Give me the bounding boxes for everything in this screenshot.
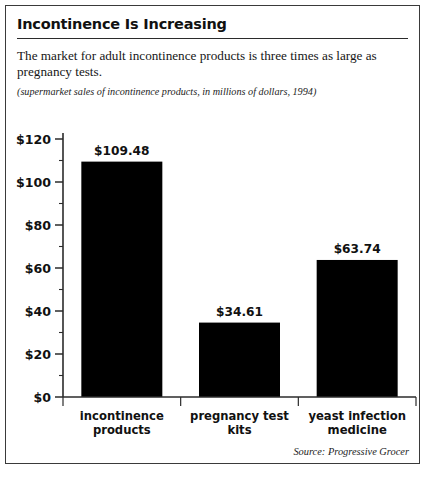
chart-figure: Incontinence Is Increasing The market fo… [5, 5, 420, 464]
x-axis-category-label: products [93, 423, 151, 437]
bar-chart-svg: $0$20$40$60$80$100$120 $109.48$34.61$63.… [6, 6, 419, 463]
plot-area: $0$20$40$60$80$100$120 $109.48$34.61$63.… [6, 6, 419, 463]
y-axis-tick-label: $100 [16, 175, 51, 190]
x-axis-category-label: pregnancy test [190, 409, 289, 423]
x-axis-category-label: yeast infection [308, 409, 405, 423]
bars-group: $109.48$34.61$63.74 [81, 144, 397, 397]
x-axis-category-label: incontinence [80, 409, 164, 423]
bar-value-label: $63.74 [334, 242, 381, 256]
y-axis-tick-label: $0 [33, 390, 51, 405]
bar [317, 260, 398, 397]
y-axis-tick-label: $40 [25, 304, 52, 319]
bar-value-label: $34.61 [216, 305, 263, 319]
y-axis-tick-label: $60 [25, 261, 52, 276]
x-axis-category-label: medicine [328, 423, 387, 437]
source-note: Source: Progressive Grocer [293, 446, 410, 457]
x-axis-category-label: kits [227, 423, 251, 437]
y-axis-tick-label: $80 [25, 218, 52, 233]
y-axis-tick-label: $20 [25, 347, 52, 362]
y-axis-tick-label: $120 [16, 132, 51, 147]
y-axis: $0$20$40$60$80$100$120 [16, 132, 63, 405]
bar-value-label: $109.48 [94, 144, 150, 158]
x-axis: incontinenceproductspregnancy testkitsye… [63, 397, 416, 437]
bar [81, 162, 162, 397]
bar [199, 323, 280, 397]
